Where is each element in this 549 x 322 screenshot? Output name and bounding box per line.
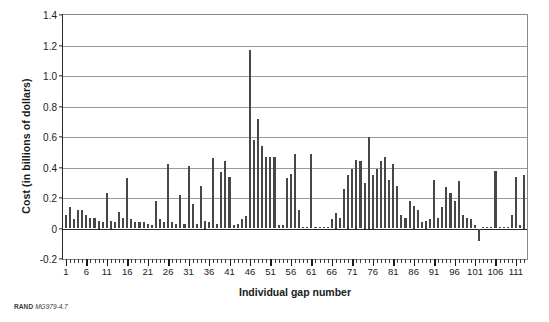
plot-area: 1.41.21.00.80.60.40.20-0.2 1611162126313…: [62, 14, 528, 260]
x-tick-mark: [508, 259, 509, 263]
x-tick-mark: [201, 259, 202, 263]
x-tick-mark: [483, 259, 484, 263]
x-tick-mark: [205, 259, 206, 263]
y-axis-title: Cost (in billions of dollars): [20, 36, 32, 256]
bar: [253, 140, 255, 228]
y-tick-label: -0.2: [40, 254, 57, 265]
bar: [454, 201, 456, 228]
bar: [494, 171, 496, 229]
bar: [265, 157, 267, 229]
bar: [294, 154, 296, 229]
x-tick-mark: [172, 259, 173, 263]
bar: [470, 219, 472, 228]
bar: [130, 219, 132, 228]
x-tick-mark: [242, 259, 243, 263]
bar: [323, 227, 325, 229]
bar: [372, 175, 374, 228]
x-tick-mark: [422, 259, 423, 263]
x-tick-mark: [213, 259, 214, 263]
x-tick-mark: [291, 259, 292, 266]
x-tick-mark: [393, 259, 394, 266]
bar: [314, 227, 316, 229]
x-tick-mark: [324, 259, 325, 263]
x-tick-mark: [254, 259, 255, 263]
x-tick-mark: [491, 259, 492, 263]
x-tick-mark: [405, 259, 406, 263]
bar: [208, 222, 210, 228]
bar: [261, 146, 263, 228]
bar: [237, 224, 239, 229]
bar: [347, 175, 349, 228]
x-tick-mark: [385, 259, 386, 263]
x-tick-mark: [230, 259, 231, 266]
y-tick-label: 0.8: [43, 101, 57, 112]
x-tick-mark: [369, 259, 370, 263]
bar: [400, 215, 402, 229]
x-tick-mark: [434, 259, 435, 266]
x-tick-mark: [86, 259, 87, 266]
x-tick-label: 6: [84, 266, 89, 277]
y-tick-label: 1.4: [43, 10, 57, 21]
bar: [118, 212, 120, 229]
x-tick-mark: [70, 259, 71, 263]
x-tick-mark: [381, 259, 382, 263]
x-tick-label: 101: [467, 266, 483, 277]
y-tick-label: 1.0: [43, 71, 57, 82]
bar: [437, 218, 439, 229]
bar: [93, 218, 95, 229]
bar: [499, 227, 501, 229]
x-tick-mark: [99, 259, 100, 263]
x-tick-mark: [82, 259, 83, 263]
y-tick-label: 0.6: [43, 132, 57, 143]
bar: [421, 222, 423, 228]
bar: [441, 207, 443, 228]
x-tick-label: 26: [163, 266, 174, 277]
x-tick-mark: [250, 259, 251, 266]
bar: [507, 227, 509, 229]
x-tick-label: 36: [204, 266, 215, 277]
x-tick-mark: [450, 259, 451, 263]
x-tick-mark: [401, 259, 402, 263]
x-tick-mark: [119, 259, 120, 263]
bar: [134, 222, 136, 228]
x-tick-mark: [397, 259, 398, 263]
x-tick-mark: [279, 259, 280, 263]
bar: [359, 161, 361, 228]
x-tick-label: 96: [449, 266, 460, 277]
x-tick-mark: [360, 259, 361, 263]
bar: [409, 201, 411, 228]
x-tick-mark: [168, 259, 169, 266]
bar: [425, 221, 427, 229]
x-tick-mark: [234, 259, 235, 263]
x-tick-mark: [446, 259, 447, 263]
bar: [364, 183, 366, 229]
bar: [228, 177, 230, 229]
x-tick-mark: [311, 259, 312, 266]
bar: [85, 215, 87, 229]
x-tick-label: 76: [367, 266, 378, 277]
bar: [216, 224, 218, 229]
x-tick-label: 16: [122, 266, 133, 277]
x-tick-mark: [148, 259, 149, 266]
x-tick-mark: [135, 259, 136, 263]
x-tick-mark: [246, 259, 247, 263]
bar: [183, 224, 185, 229]
x-tick-mark: [467, 259, 468, 263]
x-tick-mark: [414, 259, 415, 266]
bar: [486, 227, 488, 229]
x-tick-mark: [176, 259, 177, 263]
bar: [196, 224, 198, 229]
bar: [102, 222, 104, 228]
bar: [188, 166, 190, 229]
bar: [458, 181, 460, 228]
x-tick-mark: [307, 259, 308, 263]
x-tick-mark: [332, 259, 333, 266]
x-tick-label: 91: [429, 266, 440, 277]
x-tick-mark: [144, 259, 145, 263]
x-tick-mark: [315, 259, 316, 263]
x-tick-mark: [299, 259, 300, 263]
bar: [376, 169, 378, 228]
bar: [290, 174, 292, 229]
bar: [278, 225, 280, 228]
bar: [298, 210, 300, 228]
